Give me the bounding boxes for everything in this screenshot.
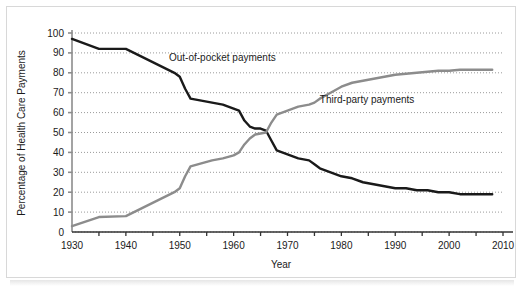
x-tick-label: 1940 <box>115 240 138 251</box>
x-tick-label: 2000 <box>438 240 461 251</box>
y-tick-label: 80 <box>53 67 65 78</box>
y-tick-labels: 0102030405060708090100 <box>47 28 64 238</box>
y-tick-label: 40 <box>53 147 65 158</box>
y-tick-label: 60 <box>53 107 65 118</box>
y-tick-label: 10 <box>53 207 65 218</box>
y-tick-label: 0 <box>58 227 64 238</box>
gridlines <box>72 33 503 232</box>
x-tick-labels: 193019401950196019701980199020002010 <box>61 240 515 251</box>
x-axis <box>72 232 513 236</box>
figure-container: 0102030405060708090100 19301940195019601… <box>0 0 522 292</box>
y-tick-label: 30 <box>53 167 65 178</box>
x-tick-label: 1970 <box>276 240 299 251</box>
x-tick-label: 2010 <box>492 240 515 251</box>
x-tick-label: 1990 <box>384 240 407 251</box>
x-tick-label: 1930 <box>61 240 84 251</box>
x-tick-label: 1950 <box>169 240 192 251</box>
line-chart: 0102030405060708090100 19301940195019601… <box>0 0 522 292</box>
y-tick-label: 50 <box>53 127 65 138</box>
y-tick-label: 100 <box>47 28 64 39</box>
y-axis <box>68 30 72 232</box>
series-line <box>72 39 492 194</box>
y-tick-label: 20 <box>53 187 65 198</box>
x-tick-label: 1980 <box>330 240 353 251</box>
y-tick-label: 70 <box>53 87 65 98</box>
series-label: Out-of-pocket payments <box>169 52 276 63</box>
x-tick-label: 1960 <box>223 240 246 251</box>
x-axis-title: Year <box>271 259 292 270</box>
series-line <box>72 70 492 226</box>
y-tick-label: 90 <box>53 47 65 58</box>
y-axis-title: Percentage of Health Care Payments <box>16 50 27 216</box>
series-label: Third-party payments <box>320 94 414 105</box>
